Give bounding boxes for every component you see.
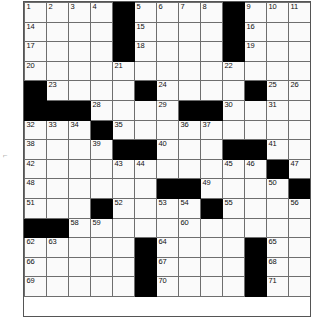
grid-cell[interactable]: 71 [267,277,289,297]
grid-cell[interactable] [289,238,311,258]
grid-cell[interactable] [267,42,289,62]
grid-cell[interactable] [201,81,223,101]
grid-cell[interactable]: 10 [267,3,289,23]
grid-cell[interactable] [179,277,201,297]
grid-cell[interactable]: 29 [157,100,179,120]
grid-cell[interactable]: 41 [267,140,289,160]
grid-cell[interactable] [267,198,289,218]
grid-cell[interactable]: 11 [289,3,311,23]
grid-cell[interactable] [69,179,91,199]
grid-cell[interactable] [245,179,267,199]
grid-cell[interactable] [91,42,113,62]
grid-cell[interactable]: 58 [69,218,91,238]
grid-cell[interactable]: 21 [113,61,135,81]
grid-cell[interactable]: 50 [267,179,289,199]
grid-cell[interactable]: 56 [289,198,311,218]
grid-cell[interactable]: 36 [179,120,201,140]
grid-cell[interactable] [91,277,113,297]
grid-cell[interactable] [201,159,223,179]
grid-cell[interactable] [47,22,69,42]
grid-cell[interactable]: 66 [25,257,47,277]
grid-cell[interactable] [179,22,201,42]
grid-cell[interactable]: 33 [47,120,69,140]
grid-cell[interactable] [289,140,311,160]
grid-cell[interactable]: 1 [25,3,47,23]
grid-cell[interactable]: 68 [267,257,289,277]
grid-cell[interactable] [47,179,69,199]
grid-cell[interactable] [179,42,201,62]
grid-cell[interactable]: 70 [157,277,179,297]
grid-cell[interactable] [223,277,245,297]
grid-cell[interactable] [135,179,157,199]
grid-cell[interactable] [201,22,223,42]
grid-cell[interactable] [91,81,113,101]
grid-cell[interactable] [47,42,69,62]
grid-cell[interactable] [69,198,91,218]
grid-cell[interactable]: 20 [25,61,47,81]
grid-cell[interactable] [113,238,135,258]
grid-cell[interactable]: 4 [91,3,113,23]
grid-cell[interactable] [113,218,135,238]
grid-cell[interactable] [157,120,179,140]
grid-cell[interactable]: 8 [201,3,223,23]
grid-cell[interactable] [69,42,91,62]
grid-cell[interactable]: 69 [25,277,47,297]
grid-cell[interactable] [179,257,201,277]
grid-cell[interactable]: 43 [113,159,135,179]
grid-cell[interactable] [289,277,311,297]
grid-cell[interactable]: 16 [245,22,267,42]
grid-cell[interactable]: 40 [157,140,179,160]
grid-cell[interactable] [69,61,91,81]
grid-cell[interactable] [245,61,267,81]
grid-cell[interactable]: 31 [267,100,289,120]
grid-cell[interactable]: 42 [25,159,47,179]
grid-cell[interactable] [289,42,311,62]
grid-cell[interactable] [289,257,311,277]
grid-cell[interactable]: 26 [289,81,311,101]
grid-cell[interactable] [135,61,157,81]
grid-cell[interactable] [47,257,69,277]
grid-cell[interactable] [201,277,223,297]
grid-cell[interactable] [157,42,179,62]
grid-cell[interactable]: 60 [179,218,201,238]
grid-cell[interactable] [47,61,69,81]
grid-cell[interactable] [179,238,201,258]
grid-cell[interactable] [289,218,311,238]
grid-cell[interactable]: 3 [69,3,91,23]
grid-cell[interactable] [157,22,179,42]
grid-cell[interactable] [201,238,223,258]
grid-cell[interactable]: 35 [113,120,135,140]
grid-cell[interactable]: 7 [179,3,201,23]
grid-cell[interactable] [201,42,223,62]
grid-cell[interactable]: 47 [289,159,311,179]
grid-cell[interactable] [223,257,245,277]
grid-cell[interactable]: 53 [157,198,179,218]
grid-cell[interactable]: 9 [245,3,267,23]
grid-cell[interactable]: 64 [157,238,179,258]
grid-cell[interactable]: 37 [201,120,223,140]
grid-cell[interactable] [223,120,245,140]
grid-cell[interactable] [267,120,289,140]
grid-cell[interactable] [245,218,267,238]
grid-cell[interactable] [113,179,135,199]
grid-cell[interactable]: 2 [47,3,69,23]
grid-cell[interactable]: 14 [25,22,47,42]
grid-cell[interactable] [91,61,113,81]
grid-cell[interactable] [69,140,91,160]
grid-cell[interactable]: 52 [113,198,135,218]
grid-cell[interactable] [201,257,223,277]
grid-cell[interactable]: 55 [223,198,245,218]
grid-cell[interactable] [135,218,157,238]
grid-cell[interactable] [289,120,311,140]
grid-cell[interactable] [179,159,201,179]
grid-cell[interactable] [179,61,201,81]
grid-cell[interactable] [113,81,135,101]
grid-cell[interactable] [223,81,245,101]
grid-cell[interactable] [289,100,311,120]
grid-cell[interactable] [69,257,91,277]
grid-cell[interactable]: 18 [135,42,157,62]
grid-cell[interactable] [157,159,179,179]
grid-cell[interactable]: 67 [157,257,179,277]
grid-cell[interactable]: 30 [223,100,245,120]
grid-cell[interactable] [113,257,135,277]
